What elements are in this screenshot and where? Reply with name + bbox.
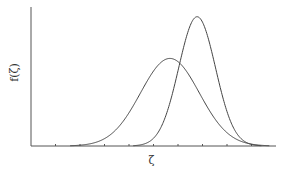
curves	[70, 17, 269, 146]
y-axis-label: f(ζ)	[8, 63, 21, 82]
chart: ζ f(ζ)	[0, 0, 289, 174]
axes	[31, 7, 276, 146]
x-axis-label: ζ	[149, 154, 155, 167]
series-distribution-narrow	[133, 17, 261, 146]
